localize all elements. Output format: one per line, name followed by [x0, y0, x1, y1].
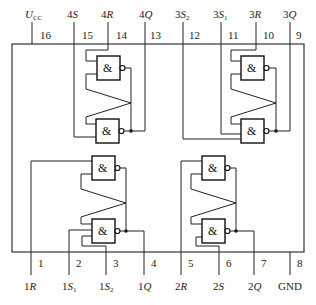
- pin-label-3s1: 3S1: [213, 8, 228, 22]
- and-symbol: &: [98, 224, 108, 238]
- bottom-pin-numbers: 1 2 3 4 5 6 7 8: [38, 257, 303, 269]
- pin-label-2s: 2S: [213, 280, 225, 292]
- pin-number: 10: [263, 29, 275, 41]
- pin-label-4s: 4S: [67, 8, 79, 20]
- latch-4-gate-a-bubble: [120, 66, 125, 71]
- top-pin-numbers: 16 15 14 13 12 11 10 9: [40, 29, 302, 41]
- and-symbol: &: [247, 124, 257, 138]
- pin-label-3s2: 3S2: [175, 8, 190, 22]
- pin-label-4r: 4R: [101, 8, 114, 20]
- pin-label-1s2: 1S2: [99, 280, 114, 294]
- and-symbol: &: [102, 124, 112, 138]
- latch-3-gate-a-bubble: [264, 66, 269, 71]
- circuit-diagram: & & & & & & & & 16 15 14 13 12 11 10 9 1…: [0, 0, 316, 305]
- and-symbol: &: [98, 161, 108, 175]
- pin-number: 7: [261, 257, 267, 269]
- pin-number: 2: [76, 257, 82, 269]
- pin-label-3r: 3R: [249, 8, 262, 20]
- top-pin-leads: [32, 22, 290, 44]
- pin-label-2r: 2R: [175, 280, 188, 292]
- pin-number: 14: [116, 29, 128, 41]
- bottom-pin-leads: [31, 252, 290, 275]
- latch-1-gate-a-bubble: [115, 166, 120, 171]
- pin-number: 4: [151, 257, 157, 269]
- pin-label-gnd: GND: [278, 280, 302, 292]
- latch-4-gate-b-bubble: [119, 129, 124, 134]
- and-symbol: &: [208, 161, 218, 175]
- pin-label-2q: 2Q: [248, 280, 262, 292]
- pin-label-1s1: 1S1: [62, 280, 77, 294]
- latch-2-gate-b-bubble: [225, 229, 230, 234]
- top-pin-labels: UCC 4S 4R 4Q 3S2 3S1 3R 3Q: [25, 8, 297, 22]
- pin-label-3q: 3Q: [283, 8, 297, 20]
- pin-number: 16: [40, 29, 52, 41]
- pin-number: 9: [296, 29, 302, 41]
- pin-number: 13: [150, 29, 162, 41]
- pin-label-vcc: UCC: [25, 8, 43, 22]
- pin-number: 15: [82, 29, 94, 41]
- pin-label-1r: 1R: [24, 280, 37, 292]
- latch-3-gate-b-bubble: [264, 129, 269, 134]
- pin-number: 12: [189, 29, 200, 41]
- pin-number: 8: [297, 257, 303, 269]
- and-symbol: &: [103, 61, 113, 75]
- pin-number: 3: [113, 257, 119, 269]
- pin-number: 11: [228, 29, 239, 41]
- latch-2-gate-a-bubble: [225, 166, 230, 171]
- pin-label-4q: 4Q: [139, 8, 153, 20]
- and-symbol: &: [247, 61, 257, 75]
- pin-number: 6: [226, 257, 232, 269]
- pin-number: 1: [38, 257, 44, 269]
- and-symbol: &: [208, 224, 218, 238]
- latch-1-gate-b-bubble: [115, 229, 120, 234]
- bottom-pin-labels: 1R 1S1 1S2 1Q 2R 2S 2Q GND: [24, 280, 302, 294]
- pin-number: 5: [188, 257, 194, 269]
- pin-label-1q: 1Q: [138, 280, 152, 292]
